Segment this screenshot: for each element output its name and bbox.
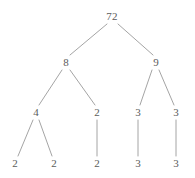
tree-node-n0: 72 — [106, 11, 117, 22]
tree-node-n4: 2 — [94, 107, 100, 118]
tree-edge-n0-n2 — [118, 24, 153, 55]
tree-node-n8: 2 — [51, 158, 57, 169]
tree-node-n5: 3 — [135, 107, 141, 118]
tree-edge-n3-n7 — [18, 120, 33, 156]
tree-node-n1: 8 — [63, 57, 69, 68]
tree-node-n9: 2 — [94, 158, 100, 169]
tree-edge-n2-n5 — [140, 70, 152, 105]
tree-node-n6: 3 — [173, 107, 179, 118]
tree-node-n7: 2 — [12, 158, 18, 169]
tree-edge-n3-n8 — [39, 120, 52, 156]
tree-node-n3: 4 — [33, 107, 39, 118]
tree-node-n10: 3 — [135, 158, 141, 169]
tree-edge-n2-n6 — [159, 70, 174, 105]
tree-node-n2: 9 — [153, 57, 159, 68]
tree-edge-n1-n4 — [70, 70, 95, 105]
tree-node-n11: 3 — [173, 158, 179, 169]
tree-edge-n1-n3 — [39, 70, 62, 105]
tree-edges-layer — [0, 0, 195, 178]
factor-tree-figure: 7289423322233 — [0, 0, 195, 178]
tree-edge-n0-n1 — [70, 24, 107, 55]
